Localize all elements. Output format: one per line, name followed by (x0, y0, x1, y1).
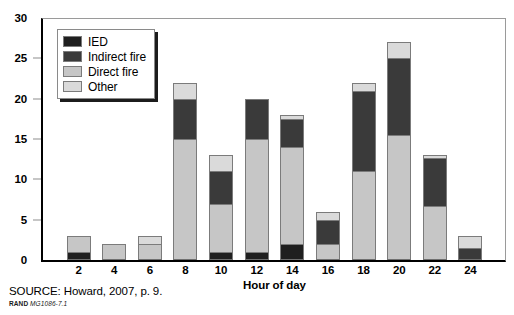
x-tick-label: 8 (182, 264, 188, 276)
y-tick-label: 20 (15, 93, 27, 105)
y-tick-label: 10 (15, 173, 27, 185)
x-tick-label: 22 (429, 264, 441, 276)
legend-item-label: Direct fire (88, 66, 138, 78)
y-axis: 051015202530 (0, 0, 41, 262)
bar-group[interactable] (173, 83, 197, 260)
bar-segment[interactable] (316, 220, 340, 244)
legend-swatch-icon (63, 81, 82, 92)
bar-segment[interactable] (209, 204, 233, 252)
bar-group[interactable] (102, 244, 126, 260)
y-tick-label: 25 (15, 52, 27, 64)
x-tick-label: 20 (393, 264, 405, 276)
x-tick-label: 14 (286, 264, 298, 276)
rand-word: RAND (9, 300, 28, 307)
legend-item-label: IED (88, 36, 108, 48)
bar-segment[interactable] (316, 244, 340, 260)
x-tick-label: 12 (250, 264, 262, 276)
bar-segment[interactable] (209, 252, 233, 260)
x-tick-label: 2 (76, 264, 82, 276)
y-tick-mark (33, 98, 41, 99)
bar-segment[interactable] (458, 236, 482, 248)
legend-item-label: Other (88, 81, 118, 93)
bar-segment[interactable] (245, 139, 269, 252)
bar-segment[interactable] (173, 83, 197, 99)
bar-segment[interactable] (138, 236, 162, 244)
bar-group[interactable] (387, 42, 411, 260)
bar-segment[interactable] (316, 212, 340, 220)
stacked-bar-chart-figure: 051015202530 24681012141618202224 Hour o… (0, 0, 514, 315)
bar-segment[interactable] (280, 119, 304, 147)
bar-group[interactable] (280, 115, 304, 260)
legend-item[interactable]: Other (63, 79, 146, 94)
bar-segment[interactable] (423, 206, 447, 260)
y-tick-label: 15 (15, 133, 27, 145)
source-note: SOURCE: Howard, 2007, p. 9. (9, 285, 162, 297)
y-tick-mark (33, 219, 41, 220)
bar-segment[interactable] (280, 147, 304, 244)
bar-segment[interactable] (102, 244, 126, 260)
bar-segment[interactable] (423, 158, 447, 206)
legend-swatch-icon (63, 51, 82, 62)
bar-segment[interactable] (138, 244, 162, 260)
bar-segment[interactable] (245, 99, 269, 139)
legend-item[interactable]: IED (63, 34, 146, 49)
y-tick-mark (33, 18, 41, 19)
bar-segment[interactable] (387, 58, 411, 135)
legend-swatch-icon (63, 66, 82, 77)
bar-group[interactable] (458, 236, 482, 260)
chart-legend: IEDIndirect fireDirect fireOther (57, 29, 155, 99)
bar-segment[interactable] (280, 244, 304, 260)
bar-segment[interactable] (67, 252, 91, 260)
bar-group[interactable] (138, 236, 162, 260)
x-tick-label: 24 (464, 264, 476, 276)
x-tick-label: 6 (147, 264, 153, 276)
y-tick-mark (33, 260, 41, 261)
bar-group[interactable] (352, 83, 376, 260)
bar-segment[interactable] (352, 83, 376, 91)
rand-document-id: RAND MG1086-7.1 (9, 300, 67, 307)
y-tick-mark (33, 139, 41, 140)
y-tick-label: 5 (21, 214, 27, 226)
bar-segment[interactable] (173, 99, 197, 139)
y-tick-mark (33, 58, 41, 59)
bar-segment[interactable] (352, 91, 376, 172)
bar-group[interactable] (316, 212, 340, 260)
legend-item-label: Indirect fire (88, 51, 146, 63)
bar-segment[interactable] (387, 135, 411, 260)
y-tick-label: 0 (21, 254, 27, 266)
y-tick-label: 30 (15, 12, 27, 24)
bar-group[interactable] (245, 99, 269, 260)
bar-segment[interactable] (173, 139, 197, 260)
legend-item[interactable]: Direct fire (63, 64, 146, 79)
legend-swatch-icon (63, 36, 82, 47)
y-tick-mark (33, 179, 41, 180)
bar-group[interactable] (67, 236, 91, 260)
x-tick-label: 10 (215, 264, 227, 276)
rand-number: MG1086-7.1 (30, 300, 67, 307)
x-tick-label: 16 (322, 264, 334, 276)
bar-segment[interactable] (387, 42, 411, 58)
bar-segment[interactable] (67, 236, 91, 252)
bar-segment[interactable] (209, 155, 233, 171)
bar-segment[interactable] (352, 171, 376, 260)
bar-segment[interactable] (209, 171, 233, 203)
bar-segment[interactable] (245, 252, 269, 260)
bar-segment[interactable] (458, 248, 482, 260)
legend-item[interactable]: Indirect fire (63, 49, 146, 64)
bar-group[interactable] (423, 155, 447, 260)
bar-group[interactable] (209, 155, 233, 260)
x-tick-label: 4 (111, 264, 117, 276)
x-tick-label: 18 (357, 264, 369, 276)
